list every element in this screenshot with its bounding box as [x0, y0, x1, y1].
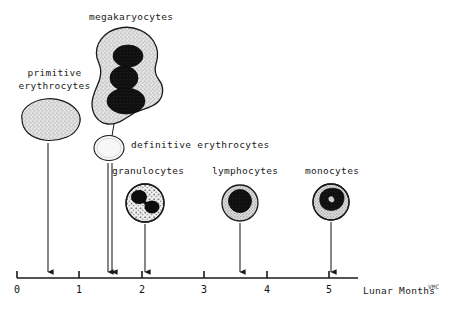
axis-tick-label-5: 5	[319, 284, 339, 295]
artist-signature: VMC	[428, 283, 439, 290]
label-primitive-erythrocytes-line1: primitive	[12, 66, 97, 79]
label-granulocytes: granulocytes	[112, 165, 184, 177]
lead-arrows	[48, 143, 331, 272]
timeline-axis	[17, 271, 358, 278]
axis-tick-label-3: 3	[194, 284, 214, 295]
label-primitive-erythrocytes: primitive erythrocytes	[12, 66, 97, 92]
label-primitive-erythrocytes-line2: erythrocytes	[12, 79, 97, 92]
axis-tick-label-4: 4	[257, 284, 277, 295]
axis-title-lunar-months: Lunar Months	[363, 285, 435, 296]
axis-tick-label-2: 2	[132, 284, 152, 295]
label-lymphocytes: lymphocytes	[212, 165, 278, 177]
label-monocytes: monocytes	[305, 165, 359, 177]
label-definitive-erythrocytes: definitive erythrocytes	[131, 139, 269, 151]
label-megakaryocytes: megakaryocytes	[89, 11, 173, 23]
axis-tick-label-0: 0	[7, 284, 27, 295]
axis-tick-label-1: 1	[69, 284, 89, 295]
axis-and-arrows-layer	[0, 0, 458, 311]
hematopoiesis-figure: primitive erythrocytes megakaryocytes de…	[0, 0, 458, 311]
